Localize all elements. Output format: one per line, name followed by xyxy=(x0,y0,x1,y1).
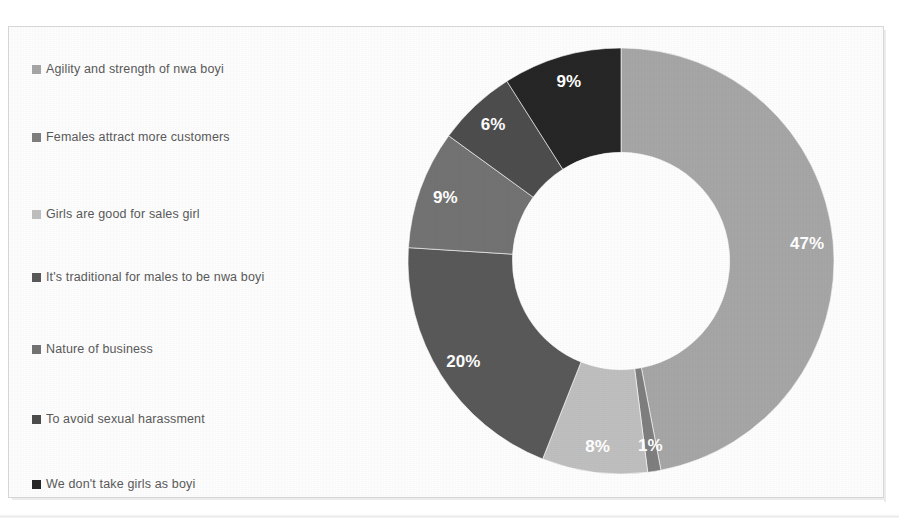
legend-item-label: To avoid sexual harassment xyxy=(46,412,205,426)
legend-item-label: We don't take girls as boyi xyxy=(46,477,195,491)
doughnut-slice[interactable] xyxy=(621,48,834,470)
doughnut-chart-plot-area: 47%1%8%20%9%6%9% xyxy=(408,48,834,474)
doughnut-svg: 47%1%8%20%9%6%9% xyxy=(408,48,834,474)
legend-item-label: Agility and strength of nwa boyi xyxy=(46,62,224,76)
legend-item[interactable]: Agility and strength of nwa boyi xyxy=(32,62,224,76)
slice-percent-label: 9% xyxy=(433,188,458,207)
legend-item[interactable]: To avoid sexual harassment xyxy=(32,412,205,426)
legend-item[interactable]: Females attract more customers xyxy=(32,130,230,144)
square-marker-icon xyxy=(32,65,41,74)
legend-item[interactable]: Girls are good for sales girl xyxy=(32,207,200,221)
legend-item[interactable]: We don't take girls as boyi xyxy=(32,477,195,491)
slice-percent-label: 9% xyxy=(557,72,582,91)
legend-item-label: Females attract more customers xyxy=(46,130,230,144)
chart-legend: Agility and strength of nwa boyiFemales … xyxy=(32,52,332,484)
square-marker-icon xyxy=(32,480,41,489)
legend-item[interactable]: It's traditional for males to be nwa boy… xyxy=(32,270,264,284)
slice-percent-label: 20% xyxy=(446,352,480,371)
slice-percent-label: 8% xyxy=(585,437,610,456)
square-marker-icon xyxy=(32,345,41,354)
doughnut-chart-screenshot: Agility and strength of nwa boyiFemales … xyxy=(0,0,899,522)
legend-item-label: It's traditional for males to be nwa boy… xyxy=(46,270,264,284)
slice-percent-label: 47% xyxy=(790,234,824,253)
bottom-scan-edge xyxy=(0,514,899,518)
square-marker-icon xyxy=(32,210,41,219)
legend-item[interactable]: Nature of business xyxy=(32,342,153,356)
legend-item-label: Girls are good for sales girl xyxy=(46,207,200,221)
doughnut-slice[interactable] xyxy=(408,248,581,459)
square-marker-icon xyxy=(32,415,41,424)
slice-percent-label: 6% xyxy=(481,115,506,134)
slice-percent-label: 1% xyxy=(638,436,663,455)
legend-item-label: Nature of business xyxy=(46,342,153,356)
square-marker-icon xyxy=(32,133,41,142)
square-marker-icon xyxy=(32,273,41,282)
frame-shadow-bottom xyxy=(12,498,886,500)
frame-shadow-right xyxy=(884,30,886,502)
doughnut-slice-group xyxy=(408,48,834,474)
